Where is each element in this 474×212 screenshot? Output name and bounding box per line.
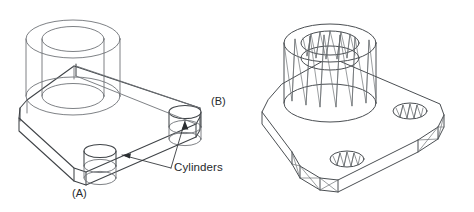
corner-facets-right	[418, 115, 444, 152]
faceted-hole-left	[330, 151, 364, 167]
figure-canvas: Cylinders (A) (B)	[0, 0, 474, 212]
faceted-boss	[284, 24, 376, 122]
cylinders-label: Cylinders	[174, 162, 223, 174]
callout-b-label: (B)	[211, 96, 226, 107]
callout-a-label: (A)	[72, 188, 87, 199]
large-boss-top-ellipse	[26, 20, 120, 58]
large-boss-walls	[26, 39, 120, 96]
faceted-view	[262, 24, 444, 192]
faceted-hole-right	[393, 103, 427, 119]
technical-drawing-svg	[0, 0, 474, 212]
large-boss-base-ellipse	[26, 77, 120, 115]
